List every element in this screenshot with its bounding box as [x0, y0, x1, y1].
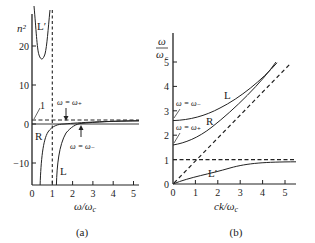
panel-b: 0 1 2 3 4 5 0 1 2 3 4 5 ω ω c ck/ωc (b) [156, 33, 296, 239]
panel-a-ytick-20: 20 [19, 41, 29, 52]
panel-a-label-Lprime: L′ [37, 20, 46, 32]
panel-a-ylabel: n² [17, 22, 27, 34]
panel-a-xtick-5: 5 [131, 188, 136, 199]
panel-b-x-ticks [195, 180, 285, 184]
panel-a-ytick-10: 10 [19, 80, 29, 91]
panel-b-ytick-1: 1 [164, 155, 169, 166]
panel-a-curve-L [56, 121, 139, 185]
panel-a-annotation-wplus: ω = ω₊ [57, 98, 82, 107]
panel-a-xtick-4: 4 [111, 188, 116, 199]
panel-b-ylabel: ω ω c [156, 35, 169, 62]
panel-b-xtick-2: 2 [215, 187, 220, 198]
panel-a-annotation-wminus: ω = ω₋ [70, 142, 95, 151]
svg-text:ω: ω [156, 48, 164, 60]
panel-b-leader-wplus [174, 133, 180, 143]
panel-a-label-one: 1 [40, 100, 45, 111]
panel-b-xlabel: ck/ωc [214, 200, 239, 214]
panel-b-xtick-5: 5 [283, 187, 288, 198]
panel-b-label-L: L [224, 89, 231, 101]
panel-b-ytick-4: 4 [164, 81, 169, 92]
panel-a-xtick-0: 0 [30, 188, 35, 199]
panel-b-caption: (b) [230, 226, 243, 239]
panel-a-xtick-3: 3 [90, 188, 95, 199]
panel-b-ytick-3: 3 [164, 106, 169, 117]
panel-b-ytick-0: 0 [164, 179, 169, 190]
panel-a-xlabel: ω/ωc [74, 200, 97, 214]
panel-a-label-L: L [60, 165, 67, 177]
panel-a-ytick-neg10: −10 [13, 158, 29, 169]
svg-text:ω: ω [158, 35, 166, 47]
panel-a-curve-Lprime [34, 6, 50, 59]
panel-a-label-R: R [35, 130, 43, 142]
panel-b-label-Lprime: L′ [208, 167, 217, 179]
panel-a-arrowhead-wminus [79, 125, 84, 130]
panel-a-ytick-0: 0 [24, 119, 29, 130]
panel-a-xtick-2: 2 [70, 188, 75, 199]
panel-b-xtick-0: 0 [171, 187, 176, 198]
panel-a: 20 10 0 −10 0 1 2 3 4 5 n² ω/ωc (a) [13, 6, 139, 239]
panel-a-caption: (a) [76, 226, 89, 239]
panel-b-annotation-wminus: ω = ω₋ [176, 99, 201, 108]
panel-b-ytick-2: 2 [164, 130, 169, 141]
panel-b-xtick-3: 3 [238, 187, 243, 198]
panel-a-curve-R [40, 121, 139, 185]
panel-b-xtick-4: 4 [260, 187, 265, 198]
panel-a-xtick-1: 1 [50, 188, 55, 199]
panel-b-label-R: R [206, 115, 214, 127]
figure: 20 10 0 −10 0 1 2 3 4 5 n² ω/ωc (a) [0, 0, 315, 243]
panel-b-xtick-1: 1 [193, 187, 198, 198]
panel-a-x-ticks [52, 181, 133, 185]
panel-b-annotation-wplus: ω = ω₊ [176, 123, 201, 132]
